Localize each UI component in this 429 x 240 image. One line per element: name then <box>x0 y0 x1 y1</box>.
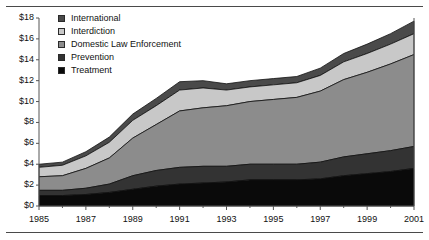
figure: $0$2$4$6$8$10$12$14$16$18 19851987198919… <box>0 0 429 240</box>
legend-swatch-icon <box>58 54 65 61</box>
y-tick-label: $4 <box>2 159 34 168</box>
legend-swatch-icon <box>58 15 65 22</box>
legend-label: Interdiction <box>71 26 115 36</box>
x-tick-label: 1993 <box>207 214 247 224</box>
legend-label: Treatment <box>71 65 112 75</box>
legend-label: International <box>71 13 121 23</box>
y-tick-label: $8 <box>2 117 34 126</box>
chart-legend: InternationalInterdictionDomestic Law En… <box>58 12 248 77</box>
y-tick-label: $6 <box>2 138 34 147</box>
legend-swatch-icon <box>58 41 65 48</box>
legend-item: International <box>58 12 248 24</box>
y-tick-label: $2 <box>2 180 34 189</box>
x-tick-label: 1989 <box>113 214 153 224</box>
legend-label: Domestic Law Enforcement <box>71 39 181 49</box>
x-tick-label: 2001 <box>394 214 429 224</box>
x-tick-label: 1995 <box>253 214 293 224</box>
legend-label: Prevention <box>71 52 114 62</box>
x-tick-label: 1999 <box>347 214 387 224</box>
y-tick-label: $16 <box>2 34 34 43</box>
y-tick-label: $0 <box>2 201 34 210</box>
y-tick-label: $10 <box>2 97 34 106</box>
legend-item: Treatment <box>58 64 248 76</box>
x-axis-labels: 198519871989199119931995199719992001 <box>0 210 429 226</box>
x-tick-label: 1987 <box>66 214 106 224</box>
y-tick-label: $12 <box>2 76 34 85</box>
legend-item: Interdiction <box>58 25 248 37</box>
y-tick-label: $18 <box>2 13 34 22</box>
legend-swatch-icon <box>58 67 65 74</box>
x-tick-label: 1997 <box>300 214 340 224</box>
y-axis-labels: $0$2$4$6$8$10$12$14$16$18 <box>0 0 34 240</box>
legend-item: Domestic Law Enforcement <box>58 38 248 50</box>
x-tick-label: 1991 <box>160 214 200 224</box>
x-tick-label: 1985 <box>19 214 59 224</box>
legend-swatch-icon <box>58 28 65 35</box>
legend-item: Prevention <box>58 51 248 63</box>
y-tick-label: $14 <box>2 55 34 64</box>
